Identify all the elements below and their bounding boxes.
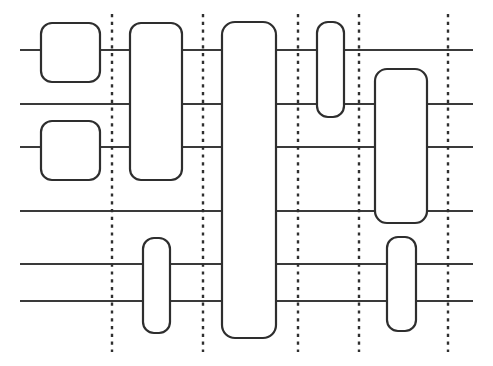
gate-col4-wires1-2[interactable]: [317, 22, 344, 117]
gate-col5-wires5-6[interactable]: [387, 237, 416, 331]
gate-col2-wires5-6[interactable]: [143, 238, 170, 333]
gate-col5-wires2-4[interactable]: [375, 69, 427, 223]
circuit-svg-surface: [0, 0, 493, 366]
gate-col3-all-wires[interactable]: [222, 22, 276, 338]
gate-col1-wire3[interactable]: [41, 121, 100, 180]
quantum-circuit-figure: [0, 0, 493, 366]
gates-group: [41, 22, 427, 338]
gate-col1-wire1[interactable]: [41, 23, 100, 82]
gate-col2-wires1-3[interactable]: [130, 23, 182, 180]
